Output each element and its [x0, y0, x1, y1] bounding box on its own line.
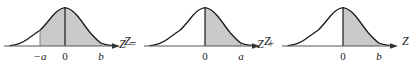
normal-curve-decomposition-figure: Z −a 0 b Z = Z 0 a: [0, 0, 415, 65]
tick-label-right-b: b: [376, 50, 382, 62]
operator-plus: Z +: [257, 38, 275, 50]
axis-arrow-right: [390, 43, 398, 49]
tick-label-left-neg-a: −a: [34, 50, 47, 62]
normal-curve-right: [288, 8, 394, 46]
tick-label-middle-zero: 0: [202, 50, 208, 62]
tick-label-left-b: b: [98, 50, 104, 62]
tick-label-middle-a: a: [238, 50, 244, 62]
panel-left: Z −a 0 b: [0, 0, 135, 65]
shaded-area-left: [40, 8, 101, 46]
normal-curve-middle: [150, 8, 256, 46]
shaded-area-middle: [205, 8, 241, 46]
axis-label-right: Z: [402, 34, 409, 48]
operator-equals: Z =: [119, 38, 137, 50]
tick-label-left-zero: 0: [62, 50, 68, 62]
shaded-area-right: [343, 8, 379, 46]
panel-middle: Z 0 a: [140, 0, 275, 65]
tick-label-right-zero: 0: [340, 50, 346, 62]
panel-right: Z 0 b: [278, 0, 413, 65]
